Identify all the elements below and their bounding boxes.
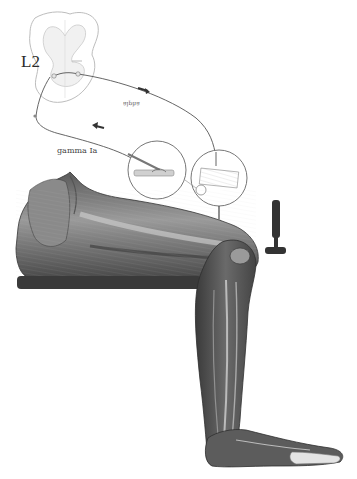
foot <box>205 429 342 466</box>
afferent-label: gamma Ia <box>57 146 97 155</box>
reflex-hammer <box>265 200 286 254</box>
spinal-cord-section <box>30 12 99 102</box>
reflex-diagram: L2 <box>0 0 357 479</box>
efferent-label: alpha <box>123 101 140 108</box>
lower-leg <box>195 240 256 462</box>
spinal-level-label: L2 <box>21 52 40 71</box>
table-edge <box>17 276 202 289</box>
direction-arrow-afferent <box>92 122 104 129</box>
